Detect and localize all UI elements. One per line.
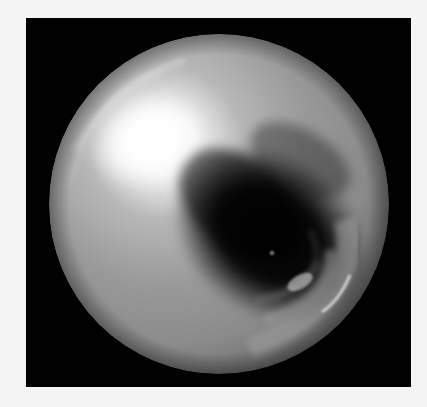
- sphere-render: [0, 0, 427, 407]
- page-background: [0, 0, 427, 407]
